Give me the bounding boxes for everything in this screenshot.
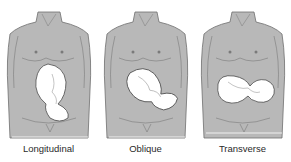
torso-illustration	[0, 0, 97, 162]
panel-transverse: Transverse	[194, 0, 291, 162]
torso-illustration	[194, 0, 291, 162]
label-oblique: Oblique	[97, 143, 194, 154]
panel-oblique: Oblique	[97, 0, 194, 162]
label-transverse: Transverse	[194, 143, 291, 154]
panel-longitudinal: Longitudinal	[0, 0, 97, 162]
torso-illustration	[97, 0, 194, 162]
label-longitudinal: Longitudinal	[0, 143, 97, 154]
